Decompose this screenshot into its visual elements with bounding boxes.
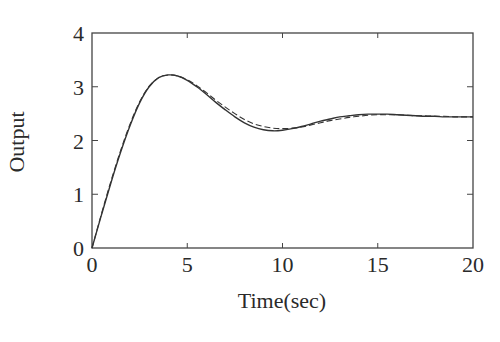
- solid-response-line: [92, 75, 473, 248]
- y-tick-label: 1: [73, 182, 84, 207]
- x-tick-label: 20: [462, 252, 484, 277]
- y-tick-label: 4: [73, 21, 84, 46]
- tick-labels: 0510152001234: [73, 21, 484, 277]
- step-response-chart: 0510152001234 Time(sec) Output: [0, 0, 500, 342]
- axis-ticks: [92, 33, 473, 248]
- y-tick-label: 0: [73, 236, 84, 261]
- x-tick-label: 15: [367, 252, 389, 277]
- plot-frame: [92, 33, 473, 248]
- x-tick-label: 0: [87, 252, 98, 277]
- plot-border: [92, 33, 473, 248]
- y-tick-label: 3: [73, 75, 84, 100]
- x-axis-label: Time(sec): [238, 288, 326, 313]
- y-tick-label: 2: [73, 129, 84, 154]
- dashed-response-line: [92, 75, 473, 248]
- x-tick-label: 10: [272, 252, 294, 277]
- x-tick-label: 5: [182, 252, 193, 277]
- data-series: [92, 75, 473, 248]
- y-axis-label: Output: [4, 111, 29, 172]
